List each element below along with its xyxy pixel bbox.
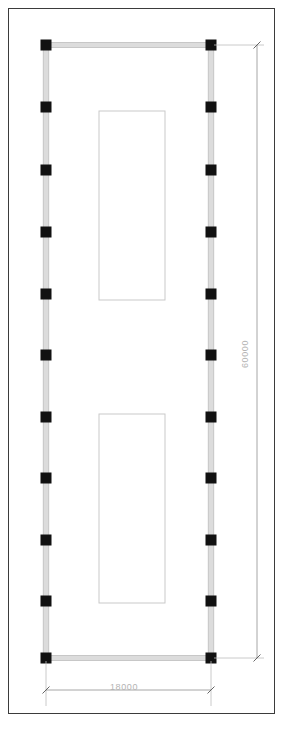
lower-opening-outline bbox=[99, 414, 165, 603]
interior-openings bbox=[99, 111, 165, 603]
node-marker bbox=[206, 227, 217, 238]
node-marker bbox=[41, 102, 52, 113]
node-marker bbox=[206, 596, 217, 607]
dimension-label-height: 60000 bbox=[238, 330, 252, 378]
node-marker bbox=[206, 289, 217, 300]
node-marker bbox=[41, 596, 52, 607]
drawing-viewport[interactable]: 60000 18000 bbox=[0, 0, 285, 731]
node-marker bbox=[206, 412, 217, 423]
node-marker bbox=[41, 227, 52, 238]
node-marker bbox=[41, 350, 52, 361]
node-marker bbox=[206, 165, 217, 176]
node-marker bbox=[206, 102, 217, 113]
frame-members bbox=[43, 42, 214, 660]
dimension-label-height-value: 60000 bbox=[240, 340, 250, 368]
top-beam-member bbox=[46, 42, 211, 47]
node-marker bbox=[41, 473, 52, 484]
node-marker bbox=[41, 289, 52, 300]
bottom-beam-member bbox=[46, 655, 211, 660]
node-marker bbox=[206, 535, 217, 546]
node-marker bbox=[206, 473, 217, 484]
upper-opening-outline bbox=[99, 111, 165, 300]
node-marker bbox=[206, 350, 217, 361]
dimension-label-width: 18000 bbox=[110, 682, 138, 692]
node-marker bbox=[41, 412, 52, 423]
node-marker bbox=[41, 40, 52, 51]
node-marker bbox=[41, 165, 52, 176]
node-marker bbox=[41, 535, 52, 546]
